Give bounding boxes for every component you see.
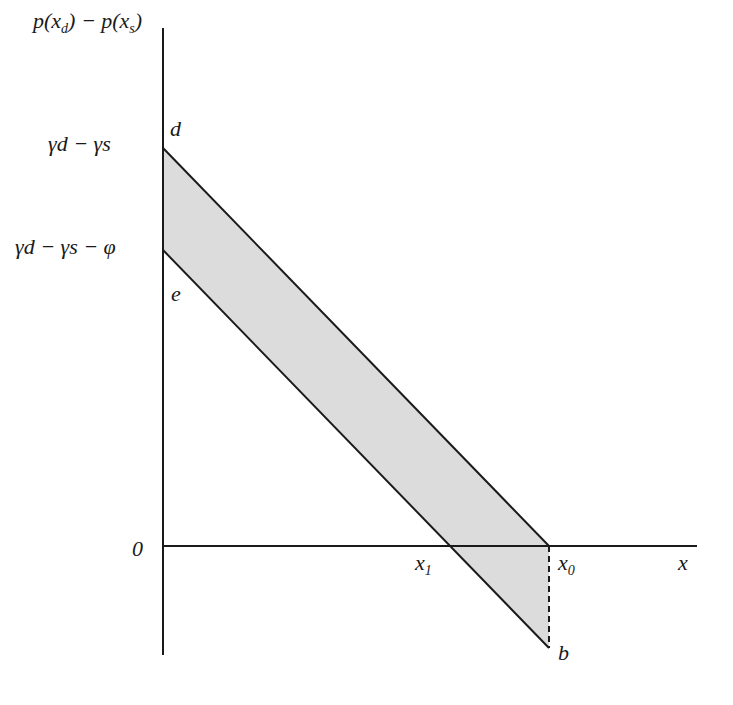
- tick-y-upper: γd − γs: [48, 133, 111, 155]
- diagram-canvas: [0, 0, 733, 705]
- upper-line-d: [163, 148, 549, 546]
- point-e: e: [171, 283, 181, 305]
- point-d: d: [170, 118, 181, 140]
- shaded-band: [163, 148, 549, 648]
- tick-x0: x0: [558, 552, 575, 578]
- tick-y-lower: γd − γs − φ: [15, 236, 116, 258]
- tick-x1: x1: [415, 552, 432, 578]
- lower-line-e: [163, 250, 549, 648]
- origin-label: 0: [132, 538, 143, 560]
- y-axis-label: p(xd) − p(xs): [33, 10, 142, 36]
- x-axis-label: x: [678, 552, 688, 574]
- point-b: b: [558, 642, 569, 664]
